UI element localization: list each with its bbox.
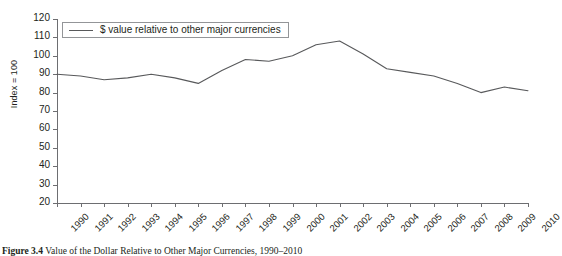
x-tick-2002 bbox=[340, 203, 341, 207]
y-tick-label-100: 100 bbox=[33, 49, 50, 61]
x-tick-label-2002: 2002 bbox=[351, 211, 374, 234]
x-tick-label-1993: 1993 bbox=[139, 211, 162, 234]
x-tick-label-1997: 1997 bbox=[233, 211, 256, 234]
x-tick-label-2009: 2009 bbox=[516, 211, 539, 234]
x-tick-label-2001: 2001 bbox=[327, 211, 350, 234]
x-tick-label-1994: 1994 bbox=[162, 211, 185, 234]
x-tick-2008 bbox=[481, 203, 482, 207]
x-tick-2001 bbox=[316, 203, 317, 207]
y-axis-label: Index = 100 bbox=[9, 38, 19, 130]
legend-line-swatch-icon bbox=[69, 30, 93, 31]
x-tick-label-2000: 2000 bbox=[304, 211, 327, 234]
y-tick-label-90: 90 bbox=[39, 67, 50, 79]
x-tick-2005 bbox=[410, 203, 411, 207]
x-tick-2004 bbox=[387, 203, 388, 207]
x-tick-1993 bbox=[128, 203, 129, 207]
x-tick-2007 bbox=[457, 203, 458, 207]
x-tick-1997 bbox=[222, 203, 223, 207]
x-tick-label-2006: 2006 bbox=[445, 211, 468, 234]
x-tick-1995 bbox=[175, 203, 176, 207]
x-tick-1991 bbox=[81, 203, 82, 207]
chart-legend: $ value relative to other major currenci… bbox=[62, 22, 289, 38]
x-tick-1992 bbox=[104, 203, 105, 207]
x-tick-label-1995: 1995 bbox=[186, 211, 209, 234]
y-tick-label-50: 50 bbox=[39, 141, 50, 153]
x-tick-label-1998: 1998 bbox=[257, 211, 280, 234]
x-tick-label-2007: 2007 bbox=[469, 211, 492, 234]
x-tick-label-2005: 2005 bbox=[421, 211, 444, 234]
x-tick-1994 bbox=[151, 203, 152, 207]
x-tick-1999 bbox=[269, 203, 270, 207]
y-tick-label-40: 40 bbox=[39, 159, 50, 171]
x-tick-label-2008: 2008 bbox=[492, 211, 515, 234]
x-tick-2009 bbox=[504, 203, 505, 207]
figure-caption: Figure 3.4 Value of the Dollar Relative … bbox=[2, 246, 538, 256]
figure-caption-number: Figure 3.4 bbox=[2, 246, 43, 256]
y-tick-label-120: 120 bbox=[33, 12, 50, 24]
y-tick-label-70: 70 bbox=[39, 104, 50, 116]
x-tick-1996 bbox=[198, 203, 199, 207]
y-tick-label-80: 80 bbox=[39, 86, 50, 98]
y-tick-label-30: 30 bbox=[39, 178, 50, 190]
x-tick-label-2003: 2003 bbox=[374, 211, 397, 234]
x-tick-1990 bbox=[57, 203, 58, 207]
series-line-dollar-index bbox=[57, 19, 528, 203]
y-tick-label-60: 60 bbox=[39, 122, 50, 134]
x-tick-label-2010: 2010 bbox=[539, 211, 562, 234]
figure-caption-text: Value of the Dollar Relative to Other Ma… bbox=[45, 246, 302, 256]
x-tick-2003 bbox=[363, 203, 364, 207]
x-tick-label-1992: 1992 bbox=[115, 211, 138, 234]
plot-area: 1201101009080706050403020 19901991199219… bbox=[57, 19, 528, 203]
y-tick-label-110: 110 bbox=[34, 30, 50, 42]
x-tick-2000 bbox=[293, 203, 294, 207]
x-tick-2006 bbox=[434, 203, 435, 207]
x-tick-label-1999: 1999 bbox=[280, 211, 303, 234]
x-tick-1998 bbox=[245, 203, 246, 207]
x-tick-label-1996: 1996 bbox=[209, 211, 232, 234]
x-tick-label-1991: 1991 bbox=[92, 211, 115, 234]
x-tick-label-1990: 1990 bbox=[68, 211, 91, 234]
x-tick-2010 bbox=[528, 203, 529, 207]
y-tick-label-20: 20 bbox=[39, 196, 50, 208]
legend-label: $ value relative to other major currenci… bbox=[100, 24, 281, 36]
x-tick-label-2004: 2004 bbox=[398, 211, 421, 234]
